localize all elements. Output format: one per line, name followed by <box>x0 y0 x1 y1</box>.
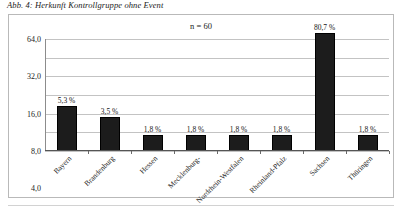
bar-slot: 1,8 % <box>131 39 174 151</box>
bar-slot: 1,8 % <box>260 39 303 151</box>
bar-value-label: 1,8 % <box>230 125 248 134</box>
bar-series: 5,3 %3,5 %1,8 %1,8 %1,8 %1,8 %80,7 %1,8 … <box>45 39 389 151</box>
bar-slot: 80,7 % <box>303 39 346 151</box>
y-axis-tick-label: 4,0 <box>31 184 41 193</box>
bar[interactable] <box>100 117 120 151</box>
bar-value-label: 1,8 % <box>187 125 205 134</box>
bar-value-label: 3,5 % <box>101 107 119 116</box>
x-axis-category-label: Mecklenburg- <box>166 154 202 190</box>
y-axis-tick-label: 8,0 <box>31 147 41 156</box>
figure-page: Abb. 4: Herkunft Kontrollgruppe ohne Eve… <box>0 0 405 216</box>
figure-caption: Abb. 4: Herkunft Kontrollgruppe ohne Eve… <box>7 0 163 11</box>
y-axis-tick-label: 16,0 <box>27 109 41 118</box>
x-axis-category-label: Bayern <box>51 154 73 176</box>
bar-value-label: 5,3 % <box>58 96 76 105</box>
x-axis-tick <box>389 151 390 154</box>
sample-size-annotation: n = 60 <box>9 21 393 31</box>
bar[interactable] <box>358 135 378 151</box>
bar-slot: 1,8 % <box>346 39 389 151</box>
bar[interactable] <box>57 106 77 151</box>
bar[interactable] <box>143 135 163 151</box>
y-axis-tick-label: 64,0 <box>27 35 41 44</box>
bar-slot: 3,5 % <box>88 39 131 151</box>
bar-value-label: 1,8 % <box>144 125 162 134</box>
x-axis-category-label: Thüringen <box>345 154 373 182</box>
x-axis-category-label: Brandenburg <box>82 154 116 188</box>
bar[interactable] <box>315 33 335 151</box>
bar-value-label: 1,8 % <box>273 125 291 134</box>
plot-area: 64,032,016,08,04,02,01,0 5,3 %3,5 %1,8 %… <box>45 39 389 151</box>
x-axis-category-label: Rheinland-Pfalz <box>247 154 288 195</box>
x-axis-category-label: Hessen <box>137 154 159 176</box>
bar-slot: 5,3 % <box>45 39 88 151</box>
bar[interactable] <box>186 135 206 151</box>
y-axis-tick-label: 32,0 <box>27 72 41 81</box>
chart-frame: n = 60 64,032,016,08,04,02,01,0 5,3 %3,5… <box>8 14 394 198</box>
x-axis-line <box>45 150 389 151</box>
bar-slot: 1,8 % <box>174 39 217 151</box>
bar-slot: 1,8 % <box>217 39 260 151</box>
x-axis-category-labels: BayernBrandenburgHessenMecklenburg-Nordr… <box>45 154 389 212</box>
x-axis-category-label: Sachsen <box>307 154 331 178</box>
bar-value-label: 80,7 % <box>314 23 335 32</box>
bar[interactable] <box>229 135 249 151</box>
page-divider-rule <box>8 205 394 206</box>
x-axis-category-label: Nordrhein-Westfalen <box>194 154 245 205</box>
bar[interactable] <box>272 135 292 151</box>
bar-value-label: 1,8 % <box>359 125 377 134</box>
